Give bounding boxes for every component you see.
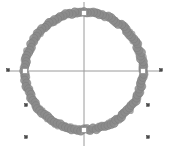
outlier-marker (25, 136, 28, 139)
plot-canvas (0, 0, 169, 148)
outlier-marker (7, 69, 10, 72)
outlier-marker (147, 136, 150, 139)
outlier-marker (25, 104, 28, 107)
outlier-marker (147, 104, 150, 107)
outlier-marker (160, 69, 163, 72)
axis-crossing-marker (82, 11, 87, 16)
axis-crossing-marker (23, 69, 28, 74)
axis-crossing-marker (141, 69, 146, 74)
axis-crossing-marker (82, 128, 87, 133)
scatter-plot-figure (0, 0, 169, 148)
